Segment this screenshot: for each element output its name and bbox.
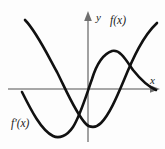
graph-figure: y x f(x) f'(x) [0, 0, 165, 149]
curve-f-prime [22, 51, 156, 137]
y-axis-arrowhead [84, 11, 92, 21]
x-axis-label: x [150, 75, 155, 86]
y-axis-label: y [96, 12, 101, 23]
curve-label-f: f(x) [110, 15, 126, 27]
curve-label-f-prime: f'(x) [11, 118, 29, 130]
